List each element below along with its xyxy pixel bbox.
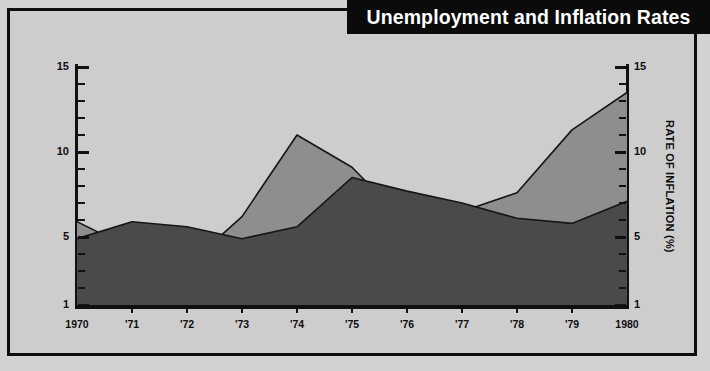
left-tick-12: [78, 117, 85, 119]
x-label-1980: 1980: [607, 318, 647, 330]
x-label-78: '78: [497, 318, 537, 330]
left-tick-15: [78, 66, 89, 69]
right-tick-3: [619, 270, 626, 272]
left-tick-2: [78, 287, 85, 289]
left-tick-8: [78, 185, 85, 187]
left-tick-11: [78, 134, 85, 136]
chart-svg: [77, 67, 627, 305]
right-tick-8: [619, 185, 626, 187]
right-tick-7: [619, 202, 626, 204]
left-tick-10: [78, 151, 89, 154]
x-tick-73: [241, 305, 243, 313]
x-label-77: '77: [442, 318, 482, 330]
plot-area: [77, 67, 627, 305]
right-tick-12: [619, 117, 626, 119]
x-tick-74: [296, 305, 298, 313]
left-tick-5: [78, 236, 89, 239]
right-y-label-5: 5: [634, 230, 658, 242]
left-y-label-10: 10: [45, 145, 69, 157]
left-tick-1: [78, 304, 89, 307]
x-label-75: '75: [332, 318, 372, 330]
right-axis-title: RATE OF INFLATION (%): [664, 120, 676, 310]
left-tick-9: [78, 168, 85, 170]
left-tick-4: [78, 253, 85, 255]
figure-unemployment-inflation: Unemployment and Inflation Rates PERCENT…: [0, 0, 710, 371]
right-tick-6: [619, 219, 626, 221]
right-tick-4: [619, 253, 626, 255]
x-tick-75: [351, 305, 353, 313]
right-y-label-15: 15: [634, 60, 658, 72]
left-tick-13: [78, 100, 85, 102]
x-tick-71: [131, 305, 133, 313]
left-y-label-15: 15: [45, 60, 69, 72]
left-y-label-1: 1: [45, 298, 69, 310]
right-tick-1: [615, 304, 626, 307]
x-label-79: '79: [552, 318, 592, 330]
chart-title: Unemployment and Inflation Rates: [367, 6, 691, 29]
x-tick-79: [571, 305, 573, 313]
left-tick-6: [78, 219, 85, 221]
right-tick-10: [615, 151, 626, 154]
right-tick-5: [615, 236, 626, 239]
x-tick-72: [186, 305, 188, 313]
right-tick-13: [619, 100, 626, 102]
left-tick-3: [78, 270, 85, 272]
title-banner: Unemployment and Inflation Rates: [347, 0, 710, 34]
right-tick-9: [619, 168, 626, 170]
x-tick-77: [461, 305, 463, 313]
right-y-label-1: 1: [634, 298, 658, 310]
x-tick-76: [406, 305, 408, 313]
x-label-1970: 1970: [57, 318, 97, 330]
x-label-71: '71: [112, 318, 152, 330]
x-label-73: '73: [222, 318, 262, 330]
left-y-label-5: 5: [45, 230, 69, 242]
right-tick-15: [615, 66, 626, 69]
x-label-72: '72: [167, 318, 207, 330]
x-label-74: '74: [277, 318, 317, 330]
x-tick-78: [516, 305, 518, 313]
right-tick-14: [619, 83, 626, 85]
left-tick-14: [78, 83, 85, 85]
right-tick-2: [619, 287, 626, 289]
right-tick-11: [619, 134, 626, 136]
right-y-label-10: 10: [634, 145, 658, 157]
left-tick-7: [78, 202, 85, 204]
x-label-76: '76: [387, 318, 427, 330]
